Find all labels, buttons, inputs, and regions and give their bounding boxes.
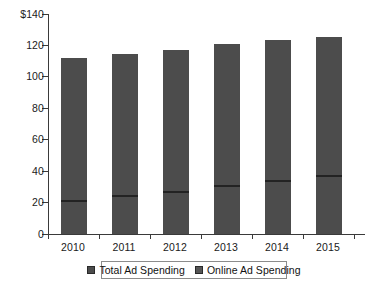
- online-marker-2014: [265, 180, 291, 182]
- x-axis-label-2014: 2014: [254, 241, 300, 253]
- x-tick-5: [303, 234, 304, 239]
- x-tick-6: [354, 234, 355, 239]
- x-tick-3: [201, 234, 202, 239]
- online-marker-2011: [112, 195, 138, 197]
- x-tick-0: [48, 234, 49, 239]
- x-tick-2: [150, 234, 151, 239]
- total-swatch-icon: [87, 266, 95, 274]
- legend-item-online[interactable]: Online Ad Spending: [195, 264, 301, 276]
- legend-label-total: Total Ad Spending: [99, 264, 185, 276]
- x-axis-label-2013: 2013: [203, 241, 249, 253]
- chart-legend: Total Ad Spending Online Ad Spending: [101, 261, 287, 279]
- bar-2010[interactable]: [61, 58, 87, 234]
- y-axis-label-40: 40: [32, 166, 44, 176]
- online-marker-2013: [214, 185, 240, 187]
- bar-chart: $140 120 100 80 60 40 20 0 2010 2011 201…: [0, 0, 373, 284]
- x-tick-4: [252, 234, 253, 239]
- x-axis-label-2010: 2010: [50, 241, 96, 253]
- legend-label-online: Online Ad Spending: [207, 264, 301, 276]
- x-axis-label-2011: 2011: [101, 241, 147, 253]
- bar-2012[interactable]: [163, 50, 189, 234]
- x-axis-label-2015: 2015: [305, 241, 351, 253]
- x-axis-label-2012: 2012: [152, 241, 198, 253]
- online-marker-2012: [163, 191, 189, 193]
- x-axis-line: [48, 234, 365, 235]
- online-marker-2015: [316, 175, 342, 177]
- y-axis-label-140: $140: [20, 9, 44, 19]
- bar-2013[interactable]: [214, 44, 240, 234]
- y-axis-label-80: 80: [32, 103, 44, 113]
- y-axis-line: [48, 14, 49, 235]
- bar-2015[interactable]: [316, 37, 342, 234]
- y-axis-label-60: 60: [32, 134, 44, 144]
- y-axis-label-100: 100: [26, 71, 44, 81]
- legend-item-total[interactable]: Total Ad Spending: [87, 264, 185, 276]
- x-tick-1: [99, 234, 100, 239]
- y-axis-label-120: 120: [26, 40, 44, 50]
- y-axis-label-20: 20: [32, 197, 44, 207]
- bar-2014[interactable]: [265, 40, 291, 234]
- online-marker-2010: [61, 200, 87, 202]
- bar-2011[interactable]: [112, 54, 138, 234]
- y-axis-label-0: 0: [38, 229, 44, 239]
- online-swatch-icon: [195, 266, 203, 274]
